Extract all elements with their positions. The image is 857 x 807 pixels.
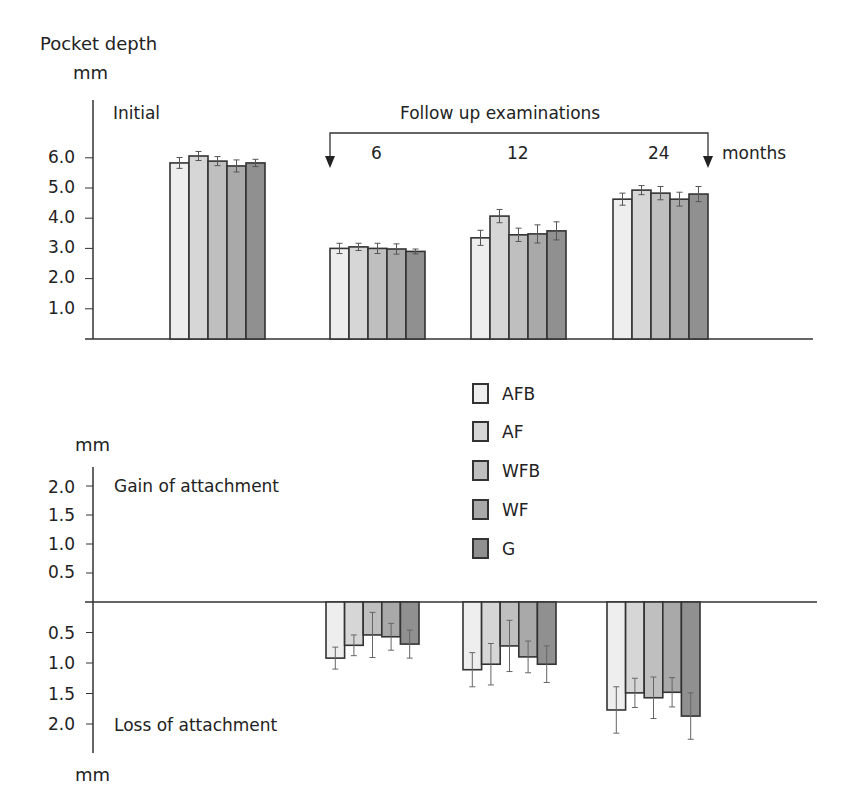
legend-swatch	[472, 460, 489, 481]
bar-g	[246, 163, 265, 339]
legend-swatch	[472, 499, 489, 520]
arrow-down-icon	[703, 156, 713, 168]
bar-wf	[528, 234, 547, 339]
bar-wf	[227, 166, 246, 339]
legend-label: AF	[502, 422, 523, 442]
bar-g	[547, 231, 566, 339]
bar-wfb	[208, 161, 227, 339]
legend-item-wf: WF	[472, 499, 529, 520]
bar-g	[406, 251, 425, 339]
legend-item-af: AF	[472, 421, 523, 442]
legend-label: G	[502, 539, 515, 559]
legend-item-g: G	[472, 538, 515, 559]
top-ytick: 6.0	[25, 149, 75, 166]
bar-wfb	[509, 235, 528, 339]
bar-afb	[330, 248, 349, 339]
top-ytick: 3.0	[25, 239, 75, 256]
bar-af	[632, 190, 651, 339]
periodontal-chart: Pocket depth mm Initial Follow up examin…	[0, 0, 857, 807]
bar-af	[349, 247, 368, 339]
initial-label: Initial	[113, 105, 160, 122]
bar-afb	[170, 163, 189, 339]
bar-af	[189, 156, 208, 339]
bottom-ylabel-bottom: mm	[75, 766, 110, 784]
bar-g	[689, 194, 708, 339]
loss-ytick: 2.0	[25, 716, 75, 733]
bar-wf	[387, 249, 406, 339]
bar-afb	[613, 199, 632, 339]
bar-af	[490, 216, 509, 339]
gain-label: Gain of attachment	[114, 478, 279, 495]
group-label-24: 24	[648, 145, 670, 162]
followup-label: Follow up examinations	[400, 105, 600, 122]
legend-label: WFB	[502, 461, 540, 481]
top-ylabel-unit: mm	[73, 64, 108, 82]
loss-label: Loss of attachment	[114, 717, 277, 734]
gain-ytick: 0.5	[25, 564, 75, 581]
loss-ytick: 0.5	[25, 625, 75, 642]
legend-item-wfb: WFB	[472, 460, 540, 481]
legend-label: WF	[502, 500, 529, 520]
top-ytick: 5.0	[25, 179, 75, 196]
legend-label: AFB	[502, 384, 535, 404]
gain-ytick: 1.5	[25, 507, 75, 524]
legend-swatch	[472, 421, 489, 442]
top-ylabel: Pocket depth	[40, 35, 157, 53]
group-label-6: 6	[371, 145, 382, 162]
legend-swatch	[472, 383, 489, 404]
bar-wfb	[368, 248, 387, 339]
bar-afb	[471, 238, 490, 339]
loss-ytick: 1.5	[25, 686, 75, 703]
bar-wf	[670, 199, 689, 339]
bottom-ylabel-top: mm	[75, 436, 110, 454]
bar-wfb	[651, 193, 670, 339]
top-ytick: 1.0	[25, 300, 75, 317]
arrow-down-icon	[325, 156, 335, 168]
loss-ytick: 1.0	[25, 655, 75, 672]
gain-ytick: 2.0	[25, 479, 75, 496]
legend-item-afb: AFB	[472, 383, 535, 404]
group-label-12: 12	[507, 145, 529, 162]
months-label: months	[722, 145, 786, 162]
legend-swatch	[472, 538, 489, 559]
top-ytick: 2.0	[25, 269, 75, 286]
top-ytick: 4.0	[25, 209, 75, 226]
gain-ytick: 1.0	[25, 536, 75, 553]
